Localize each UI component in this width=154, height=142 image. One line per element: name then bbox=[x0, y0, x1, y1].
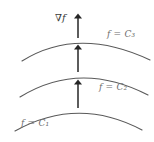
level-label-c2: f = C₂ bbox=[99, 83, 127, 92]
level-curve-c3 bbox=[22, 43, 150, 61]
level-label-c3: f = C₃ bbox=[107, 30, 135, 39]
level-curve-c2 bbox=[20, 78, 148, 97]
gradient-level-curve-figure: ∇f f = C₃ f = C₂ f = C₁ bbox=[0, 0, 154, 142]
gradient-label: ∇f bbox=[55, 13, 66, 23]
level-label-c1: f = C₁ bbox=[21, 119, 49, 128]
